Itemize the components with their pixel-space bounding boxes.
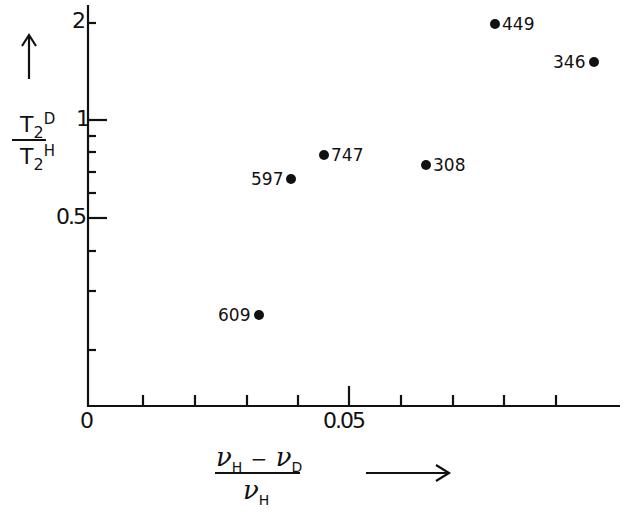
point-label: 597 bbox=[251, 171, 283, 188]
x-tick-0: 0 bbox=[80, 410, 94, 432]
point-label: 449 bbox=[502, 16, 534, 33]
x-tick-005: 0.05 bbox=[323, 410, 364, 432]
point-label: 609 bbox=[218, 307, 250, 324]
x-label-numerator: νH − νD bbox=[216, 444, 302, 474]
point-label: 747 bbox=[331, 147, 363, 164]
y-tick-05: 0.5 bbox=[56, 206, 85, 228]
point-label: 308 bbox=[433, 157, 465, 174]
point-label: 346 bbox=[553, 54, 585, 71]
y-label-numerator: T2D bbox=[20, 112, 55, 141]
y-tick-1: 1 bbox=[76, 108, 90, 130]
y-label-denominator: T2H bbox=[20, 144, 55, 173]
x-label-denominator: νH bbox=[243, 477, 269, 507]
data-points bbox=[254, 19, 599, 320]
chart-canvas bbox=[0, 0, 624, 518]
y-tick-2: 2 bbox=[72, 10, 86, 32]
